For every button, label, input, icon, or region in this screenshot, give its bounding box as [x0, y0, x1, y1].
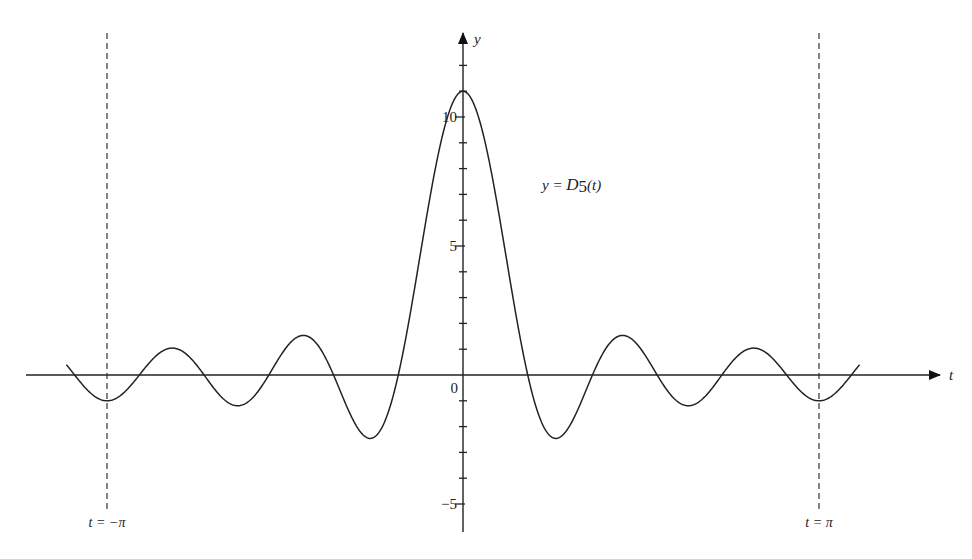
- dirichlet-kernel-chart: 1050−5 t y y = D5(t) t = −π t = π: [0, 0, 972, 559]
- label-t-minus-pi: t = −π: [89, 515, 127, 530]
- curve-label: y = D5(t): [540, 175, 601, 196]
- y-tick-label: −5: [441, 496, 457, 512]
- label-t-pi: t = π: [805, 515, 833, 530]
- y-tick-label: 5: [450, 238, 458, 254]
- x-axis-label: t: [949, 367, 954, 383]
- y-axis-tick-labels: 1050−5: [441, 109, 458, 512]
- y-tick-label: 0: [451, 380, 459, 396]
- y-axis-ticks: [455, 65, 467, 504]
- y-axis-label: y: [472, 31, 481, 47]
